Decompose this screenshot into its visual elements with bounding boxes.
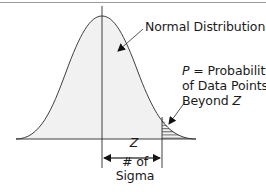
number-of-label: # of xyxy=(110,154,160,169)
z-variable: Z xyxy=(232,93,240,108)
normal-distribution-label: Normal Distribution xyxy=(145,19,265,34)
z-label: Z xyxy=(124,135,144,150)
probability-label: P = Probability of Data Points Beyond Z xyxy=(182,63,266,108)
bell-curve-area xyxy=(16,16,196,139)
tail-region xyxy=(162,117,193,139)
sigma-label: Sigma xyxy=(110,168,160,183)
